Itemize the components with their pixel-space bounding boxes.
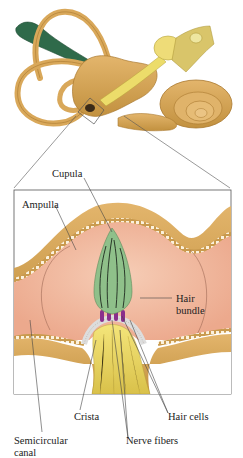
nerve-trunk bbox=[172, 26, 214, 72]
label-crista: Crista bbox=[74, 411, 99, 422]
label-hair-bundle-line2: bundle bbox=[176, 305, 205, 316]
label-nerve-fibers: Nerve fibers bbox=[126, 435, 178, 446]
ampulla-highlight bbox=[85, 104, 95, 112]
label-cupula: Cupula bbox=[52, 168, 82, 179]
label-semicircular-line1: Semicircular bbox=[14, 435, 68, 446]
inner-ear-overview bbox=[14, 12, 232, 188]
label-semicircular-line2: canal bbox=[14, 447, 36, 458]
label-hair-bundle-line1: Hair bbox=[176, 293, 195, 304]
label-ampulla: Ampulla bbox=[22, 199, 59, 210]
label-hair-cells: Hair cells bbox=[168, 411, 209, 422]
inner-ear-diagram bbox=[0, 0, 243, 458]
zoom-line-right bbox=[124, 116, 230, 188]
